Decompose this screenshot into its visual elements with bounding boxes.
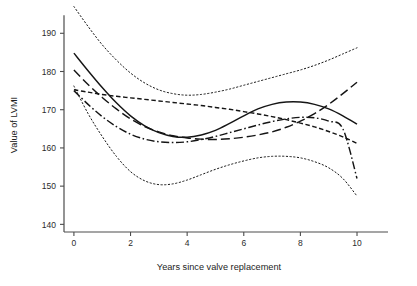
x-tick-label: 0 (72, 238, 77, 248)
lvmi-longitudinal-chart: 140150160170180190 0246810 Value of LVMI… (0, 0, 417, 286)
x-tick-label: 4 (185, 238, 190, 248)
y-axis-title: Value of LVMI (9, 97, 19, 153)
y-tick-label: 180 (42, 67, 56, 77)
y-tick-label: 170 (42, 105, 56, 115)
y-tick-label: 140 (42, 220, 56, 230)
y-tick-label: 150 (42, 181, 56, 191)
x-axis-title: Years since valve replacement (157, 262, 282, 272)
x-tick-label: 2 (128, 238, 133, 248)
x-tick-label: 6 (241, 238, 246, 248)
chart-canvas: 140150160170180190 0246810 Value of LVMI… (0, 0, 417, 286)
y-tick-label: 160 (42, 143, 56, 153)
x-tick-label: 10 (352, 238, 362, 248)
x-tick-label: 8 (298, 238, 303, 248)
y-tick-label: 190 (42, 28, 56, 38)
